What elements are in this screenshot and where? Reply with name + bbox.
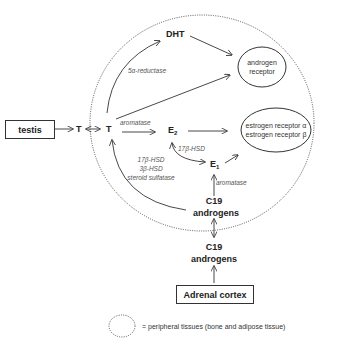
c19-conversion-enzymes: 17β-HSD 3β-HSD steroid sulfatase (118, 155, 184, 182)
c19-androgens-inner: C19 androgens (193, 196, 235, 219)
estrogen-receptor-alpha: estrogen receptor α (241, 121, 311, 130)
legend-text: = peripheral tissues (bone and adipose t… (142, 323, 285, 330)
estradiol-label: E2 (168, 126, 177, 136)
adrenal-cortex-box: Adrenal cortex (176, 285, 254, 304)
androgen-receptor-line2: receptor (240, 67, 284, 76)
hsd3-label: 3β-HSD (118, 164, 184, 173)
legend-dotted-circle-icon (109, 315, 135, 337)
hsd17-e-label: 17β-HSD (178, 146, 205, 153)
estrone-subscript: 1 (216, 164, 219, 170)
c19-outer-line2: androgens (190, 254, 238, 266)
androgen-receptor-line1: androgen (240, 58, 284, 67)
hsd17-label: 17β-HSD (118, 155, 184, 164)
estrone-label: E1 (210, 160, 219, 170)
steroid-sulfatase-label: steroid sulfatase (118, 173, 184, 182)
testis-box: testis (5, 120, 55, 139)
c19-inner-line2: androgens (193, 208, 235, 220)
aromatase-e1-label: aromatase (216, 180, 247, 187)
testosterone-inside-label: T (106, 125, 112, 134)
estradiol-subscript: 2 (174, 130, 177, 136)
dht-label: DHT (166, 30, 185, 39)
estrogen-receptor-label: estrogen receptor α estrogen receptor β (241, 121, 311, 140)
five-alpha-reductase-label: 5α-reductase (128, 68, 166, 75)
testosterone-outside-label: T (76, 125, 82, 134)
c19-androgens-outer: C19 androgens (190, 242, 238, 265)
c19-outer-line1: C19 (190, 242, 238, 254)
estrogen-receptor-beta: estrogen receptor β (241, 130, 311, 139)
aromatase-t-label: aromatase (120, 120, 151, 127)
c19-inner-line1: C19 (193, 196, 235, 208)
androgen-receptor-label: androgen receptor (240, 58, 284, 77)
